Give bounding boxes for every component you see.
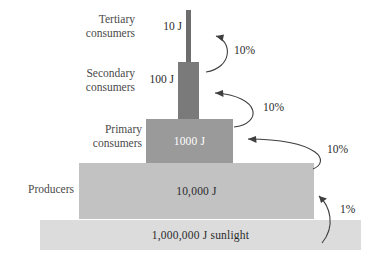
tier-label-producers: Producers — [2, 182, 74, 196]
energy-value-tertiary: 10 J — [120, 20, 182, 32]
energy-value-producers: 10,000 J — [176, 185, 217, 197]
pyramid-bar-sunlight: 1,000,000 J sunlight — [40, 220, 361, 250]
pyramid-bar-secondary-consumers — [178, 62, 199, 120]
energy-value-secondary: 100 J — [112, 73, 174, 85]
tier-label-tertiary-consumers: Tertiary consumers — [10, 12, 135, 40]
efficiency-label-sunlight-to-producers: 1% — [340, 203, 355, 215]
transfer-arrow-secondary-to-tertiary-icon — [206, 35, 227, 73]
tier-label-primary-consumers: Primary consumers — [10, 122, 142, 150]
energy-value-primary: 1000 J — [174, 135, 206, 147]
efficiency-label-secondary-to-tertiary: 10% — [234, 44, 255, 56]
efficiency-label-primary-to-secondary: 10% — [263, 101, 284, 113]
efficiency-label-producers-to-primary: 10% — [327, 143, 348, 155]
energy-value-sunlight: 1,000,000 J sunlight — [152, 229, 249, 241]
pyramid-bar-tertiary-consumers — [186, 10, 191, 68]
energy-pyramid-diagram: Tertiary consumers Secondary consumers P… — [0, 0, 381, 261]
pyramid-bar-producers: 10,000 J — [79, 163, 314, 219]
pyramid-bar-primary-consumers: 1000 J — [146, 119, 233, 163]
